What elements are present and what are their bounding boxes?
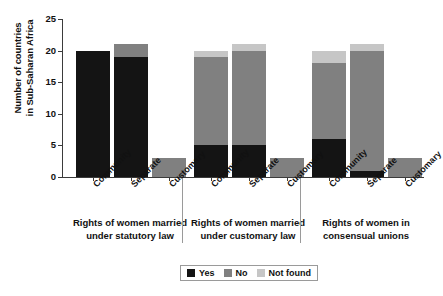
legend-item-not-found: Not found <box>257 268 311 278</box>
y-axis-tick-mark <box>58 145 62 146</box>
legend-item-yes: Yes <box>187 268 215 278</box>
y-axis-tick-label: 15 <box>34 76 56 87</box>
group-caption-line: under customary law <box>186 229 310 242</box>
bar-segment-no <box>312 63 346 139</box>
y-axis-tick-label: 25 <box>34 13 56 24</box>
group-caption-line: Rights of women married <box>186 216 310 229</box>
y-axis-tick-mark <box>58 177 62 178</box>
legend-item-no: No <box>224 268 248 278</box>
legend-label: No <box>236 268 248 278</box>
y-axis-tick-label: 20 <box>34 45 56 56</box>
group-separator-caption <box>182 213 183 243</box>
y-axis-tick-mark <box>58 19 62 20</box>
chart-legend: YesNoNot found <box>180 265 318 281</box>
y-axis-line <box>62 19 63 177</box>
group-caption-line: consensual unions <box>304 229 428 242</box>
y-axis-tick-mark <box>58 51 62 52</box>
bar-segment-yes <box>76 51 110 177</box>
legend-swatch-icon <box>187 269 195 277</box>
group-caption-line: under statutory law <box>68 229 192 242</box>
y-axis-tick-label: 5 <box>34 139 56 150</box>
y-axis-tick-label: 0 <box>34 171 56 182</box>
group-caption: Rights of women marriedunder customary l… <box>186 216 310 242</box>
bar-segment-no <box>114 44 148 57</box>
group-caption: Rights of women marriedunder statutory l… <box>68 216 192 242</box>
bar-segment-not-found <box>312 51 346 64</box>
group-caption-line: Rights of women in <box>304 216 428 229</box>
y-axis-tick-mark <box>58 82 62 83</box>
bar-community <box>76 51 110 177</box>
bar-segment-no <box>194 57 228 145</box>
legend-swatch-icon <box>257 269 265 277</box>
legend-label: Not found <box>269 268 311 278</box>
y-axis-tick-label: 10 <box>34 108 56 119</box>
group-separator-caption <box>300 213 301 243</box>
legend-swatch-icon <box>224 269 232 277</box>
group-separator-axis <box>300 178 301 216</box>
group-separator-axis <box>182 178 183 216</box>
y-axis-title-line-1: Number of countries <box>12 0 24 143</box>
bar-segment-no <box>232 51 266 146</box>
group-caption-line: Rights of women married <box>68 216 192 229</box>
y-axis-tick-mark <box>58 114 62 115</box>
legend-label: Yes <box>199 268 215 278</box>
group-caption: Rights of women inconsensual unions <box>304 216 428 242</box>
